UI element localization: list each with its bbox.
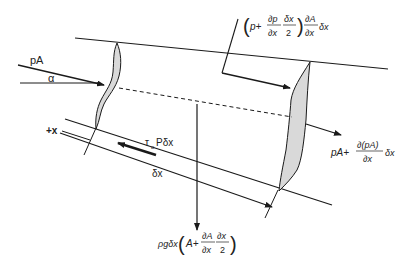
svg-text:∂x: ∂x [305, 28, 314, 38]
svg-text:Pδx: Pδx [156, 137, 173, 148]
svg-text:τ: τ [145, 137, 149, 148]
svg-text:A+: A+ [185, 238, 199, 249]
svg-text:δx: δx [385, 148, 395, 158]
svg-text:∂A: ∂A [202, 231, 212, 241]
svg-text:pA+: pA+ [330, 147, 349, 158]
svg-text:∂x: ∂x [268, 28, 277, 38]
wall-pressure-leader [222, 19, 238, 73]
pipe-element-diagram: pA α +x τ o Pδx δx pA+ ∂(pA) ∂x δx ( p+ … [0, 0, 407, 275]
svg-text:p+: p+ [249, 21, 262, 32]
svg-text:∂(pA): ∂(pA) [357, 140, 378, 150]
svg-text:∂A: ∂A [305, 14, 315, 24]
svg-text:(: ( [243, 15, 250, 37]
wall-pressure-label: ( p+ ∂p ∂x δx 2 ) ∂A ∂x δx [243, 14, 329, 38]
svg-text:o: o [151, 144, 155, 150]
outlet-force-arrow [306, 124, 341, 135]
svg-text:2: 2 [220, 245, 225, 255]
svg-text:ρgδx: ρgδx [157, 239, 178, 249]
centerline [119, 88, 292, 117]
svg-text:(: ( [178, 233, 185, 255]
svg-text:2: 2 [286, 28, 291, 38]
right-cross-section [279, 62, 310, 191]
svg-text:∂p: ∂p [268, 14, 277, 24]
left-cross-section [96, 43, 121, 129]
outlet-force-label: pA+ ∂(pA) ∂x δx [330, 140, 395, 164]
svg-text:∂x: ∂x [363, 154, 372, 164]
weight-label: ρgδx ( A+ ∂A ∂x ∂x 2 ) [157, 231, 237, 255]
length-label: δx [152, 168, 163, 179]
right-tick [265, 190, 278, 218]
angle-label: α [48, 72, 55, 84]
shear-force-label: τ o Pδx [145, 137, 173, 150]
wall-pressure-arrow [222, 73, 290, 88]
svg-text:): ) [297, 15, 304, 37]
svg-text:δx: δx [319, 22, 329, 32]
svg-text:δx: δx [284, 14, 294, 24]
svg-text:∂x: ∂x [217, 231, 226, 241]
inlet-force-arrow [18, 65, 104, 85]
svg-text:): ) [230, 233, 237, 255]
svg-text:∂x: ∂x [202, 245, 211, 255]
direction-label: +x [46, 125, 58, 136]
inlet-force-label: pA [30, 54, 44, 66]
